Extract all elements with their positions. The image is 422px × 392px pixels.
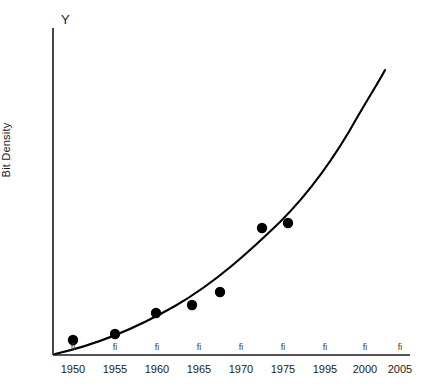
chart-container: Y Bit Density fififififififififi 1950195… [0,0,422,392]
data-point-group [68,218,293,345]
data-point-marker [151,308,161,318]
x-axis-tick-label: 1995 [303,364,347,375]
x-axis-tick-glyph: fi [66,343,80,352]
x-axis-tick-label: 1970 [219,364,263,375]
x-axis-tick-glyph: fi [318,343,332,352]
x-axis-tick-label: 1975 [261,364,305,375]
data-point-marker [110,329,120,339]
x-axis-tick-label: 1965 [177,364,221,375]
trend-curve [55,70,385,354]
x-axis-tick-glyph: fi [192,343,206,352]
x-axis-tick-glyph: fi [108,343,122,352]
data-point-marker [257,223,267,233]
data-point-marker [187,300,197,310]
x-axis-tick-label: 1960 [135,364,179,375]
x-axis-tick-glyph: fi [150,343,164,352]
chart-top-label: Y [61,13,70,26]
data-point-marker [215,287,225,297]
x-axis-tick-label: 2005 [378,364,422,375]
x-axis-tick-label: 1955 [93,364,137,375]
x-axis-tick-glyph: fi [234,343,248,352]
chart-plot-area [0,0,422,392]
x-axis-tick-glyph: fi [393,343,407,352]
x-axis-tick-glyph: fi [276,343,290,352]
data-point-marker [283,218,293,228]
x-axis-tick-glyph: fi [358,343,372,352]
x-axis-tick-label: 1950 [51,364,95,375]
